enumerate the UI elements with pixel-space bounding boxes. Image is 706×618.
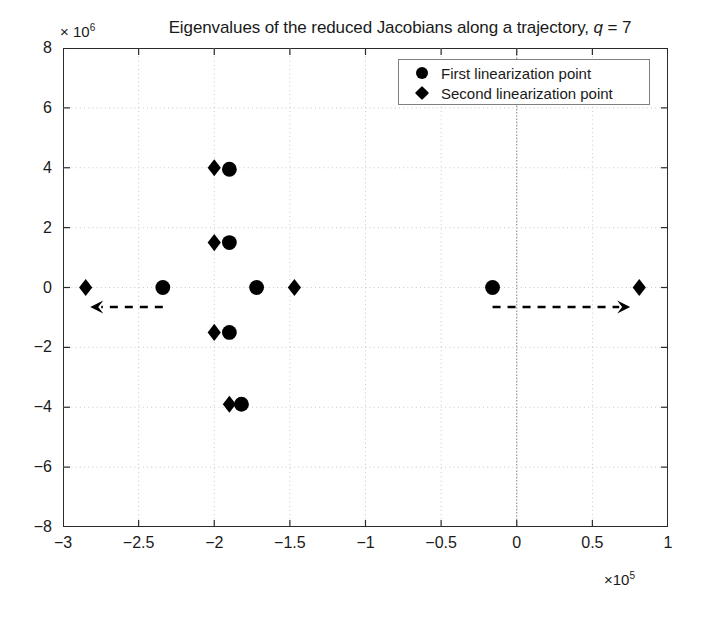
data-point-circle-series-0 (222, 162, 237, 177)
plot-canvas (63, 48, 668, 527)
data-point-circle-series-0 (222, 235, 237, 250)
chart-title-value: = 7 (608, 18, 632, 37)
eigenvalue-scatter-figure: Eigenvalues of the reduced Jacobians alo… (0, 0, 706, 618)
circle-marker-icon (409, 67, 435, 79)
data-point-diamond-series-1 (208, 234, 221, 251)
y-axis-exponent: × 106 (60, 22, 95, 40)
x-tick-label: 1 (633, 534, 703, 552)
y-tick-label: −4 (2, 398, 52, 416)
data-point-circle-series-0 (155, 280, 170, 295)
data-point-circle-series-0 (222, 325, 237, 340)
data-point-diamond-series-1 (288, 279, 301, 296)
diamond-marker-icon (409, 88, 435, 98)
data-point-diamond-series-1 (208, 324, 221, 341)
y-tick-label: −2 (2, 338, 52, 356)
x-tick-label: 0.5 (557, 534, 627, 552)
x-axis-exponent-base: ×10 (604, 571, 629, 588)
x-tick-label: −2.5 (104, 534, 174, 552)
data-point-circle-series-0 (485, 280, 500, 295)
annotation-arrows (90, 300, 630, 313)
data-point-circle-series-0 (234, 397, 249, 412)
y-tick-label: 4 (2, 159, 52, 177)
legend-item-second-linearization-point: Second linearization point (399, 83, 649, 103)
chart-title: Eigenvalues of the reduced Jacobians alo… (120, 18, 680, 38)
y-tick-label: 6 (2, 99, 52, 117)
data-point-markers (79, 159, 646, 413)
data-point-circle-series-0 (249, 280, 264, 295)
y-axis-exponent-base: × 10 (60, 23, 90, 40)
legend-item-first-linearization-point: First linearization point (399, 63, 649, 83)
chart-title-variable: q (594, 18, 603, 37)
data-point-diamond-series-1 (79, 279, 92, 296)
chart-title-text: Eigenvalues of the reduced Jacobians alo… (169, 18, 589, 37)
x-tick-label: 0 (482, 534, 552, 552)
x-tick-label: −0.5 (406, 534, 476, 552)
data-point-diamond-series-1 (633, 279, 646, 296)
legend-label-second: Second linearization point (441, 85, 613, 102)
x-tick-label: −1.5 (255, 534, 325, 552)
x-tick-label: −1 (331, 534, 401, 552)
y-tick-label: 2 (2, 219, 52, 237)
y-tick-label: −6 (2, 458, 52, 476)
y-axis-exponent-power: 6 (90, 22, 96, 33)
chart-legend: First linearization point Second lineari… (398, 59, 650, 105)
y-tick-label: 8 (2, 39, 52, 57)
y-tick-label: 0 (2, 279, 52, 297)
x-tick-label: −3 (28, 534, 98, 552)
data-point-diamond-series-1 (208, 159, 221, 176)
x-axis-exponent: ×105 (604, 570, 635, 588)
x-tick-label: −2 (179, 534, 249, 552)
x-axis-exponent-power: 5 (629, 570, 635, 581)
data-point-diamond-series-1 (223, 396, 236, 413)
legend-label-first: First linearization point (441, 65, 591, 82)
